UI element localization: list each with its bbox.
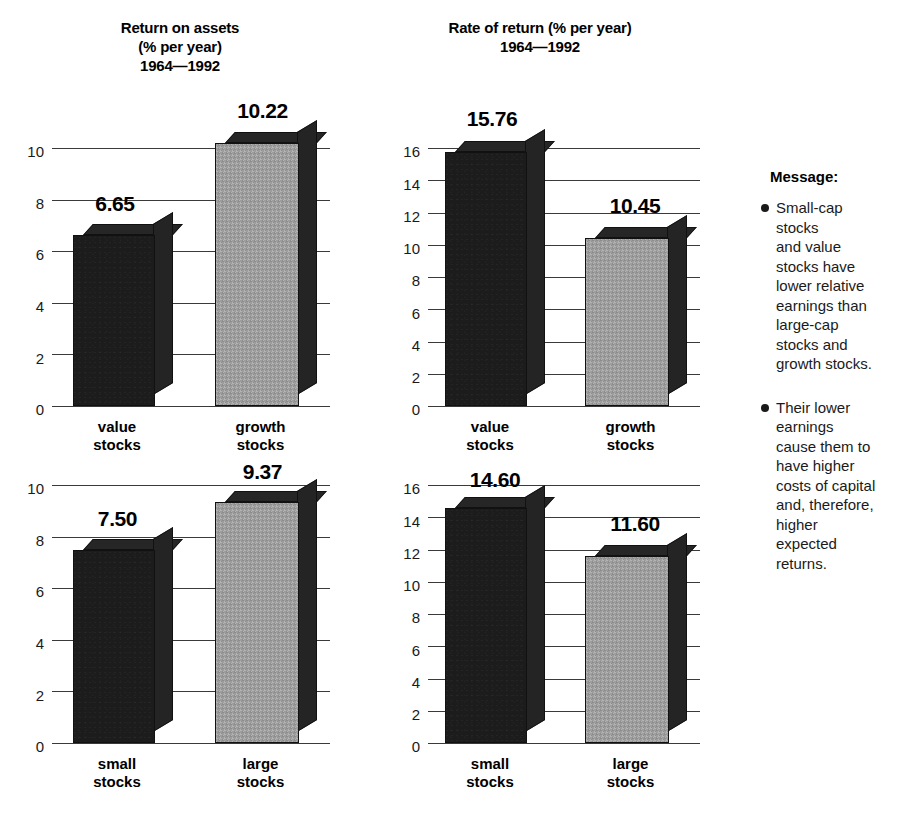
x-category-label: growth stocks <box>203 418 318 454</box>
message-bullet-item: Their lower earnings cause them to have … <box>760 398 900 574</box>
bar-large-stocks <box>585 545 690 743</box>
bar-value-stocks <box>445 141 547 406</box>
bar-side-face <box>525 485 545 732</box>
ytick-label: 0 <box>382 739 420 754</box>
ytick-label: 16 <box>382 481 420 496</box>
ytick-label: 4 <box>6 636 44 651</box>
ytick-label: 6 <box>6 247 44 262</box>
message-heading: Message: <box>770 168 900 185</box>
ytick-label: 6 <box>6 584 44 599</box>
ytick-label: 10 <box>382 241 420 256</box>
bar-value-label: 6.65 <box>60 193 170 214</box>
x-category-label: small stocks <box>435 755 545 791</box>
bar-side-face <box>153 527 173 732</box>
ytick-label: 10 <box>382 578 420 593</box>
chart-panel-return-on-assets-value-growth: Return on assets (% per year) 1964—1992 … <box>0 10 360 460</box>
bar-front-face <box>215 143 299 406</box>
ytick-label: 4 <box>6 299 44 314</box>
bar-large-stocks <box>215 491 320 743</box>
x-category-label: value stocks <box>435 418 545 454</box>
plot-area-bottom-left: 10 8 6 4 2 0 7.50 9.37 small stocks larg… <box>0 455 360 819</box>
gridline-0 <box>52 743 330 744</box>
gridline-0 <box>428 406 700 407</box>
ytick-label: 8 <box>382 610 420 625</box>
chart-page: Return on assets (% per year) 1964—1992 … <box>0 0 900 819</box>
gridline-0 <box>52 406 330 407</box>
ytick-label: 10 <box>6 144 44 159</box>
ytick-label: 0 <box>6 402 44 417</box>
bullet-dot-icon <box>761 204 769 212</box>
x-category-label: value stocks <box>62 418 172 454</box>
plot-area-top-left: 10 8 6 4 2 0 6.65 10.22 value stocks gro <box>0 10 360 460</box>
ytick-label: 16 <box>382 144 420 159</box>
plot-area-top-right: 16 14 12 10 8 6 4 2 0 15.76 10.45 v <box>380 10 720 460</box>
ytick-label: 2 <box>6 688 44 703</box>
ytick-label: 14 <box>382 177 420 192</box>
ytick-label: 14 <box>382 514 420 529</box>
message-bullet-text: Their lower earnings cause them to have … <box>776 399 875 572</box>
ytick-label: 0 <box>382 402 420 417</box>
x-category-label: large stocks <box>573 755 688 791</box>
bar-value-stocks <box>73 224 173 406</box>
bar-value-label: 15.76 <box>432 108 552 129</box>
ytick-label: 0 <box>6 739 44 754</box>
bar-front-face <box>445 508 527 743</box>
gridline-10 <box>52 485 330 486</box>
bar-value-label: 10.22 <box>205 100 320 121</box>
ytick-label: 6 <box>382 306 420 321</box>
ytick-label: 4 <box>382 338 420 353</box>
bar-growth-stocks <box>585 227 690 406</box>
x-category-label: growth stocks <box>573 418 688 454</box>
bar-side-face <box>153 212 173 395</box>
ytick-label: 4 <box>382 675 420 690</box>
bar-side-face <box>667 215 687 395</box>
bar-value-label: 11.60 <box>575 513 695 534</box>
bar-front-face <box>585 556 669 743</box>
ytick-label: 8 <box>6 533 44 548</box>
x-category-label: large stocks <box>203 755 318 791</box>
bar-value-label: 7.50 <box>60 508 175 529</box>
gridline-0 <box>428 743 700 744</box>
bar-front-face <box>585 238 669 406</box>
ytick-label: 12 <box>382 546 420 561</box>
bar-value-label: 9.37 <box>205 461 320 482</box>
ytick-label: 2 <box>382 707 420 722</box>
message-bullet-item: Small-cap stocks and value stocks have l… <box>760 198 900 374</box>
bar-value-label: 10.45 <box>575 195 695 216</box>
message-bullet-text: Small-cap stocks and value stocks have l… <box>776 199 872 372</box>
ytick-label: 2 <box>6 351 44 366</box>
bar-small-stocks <box>73 539 173 743</box>
bar-side-face <box>525 129 545 395</box>
chart-panel-return-on-assets-small-large: 10 8 6 4 2 0 7.50 9.37 small stocks larg… <box>0 455 360 819</box>
ytick-label: 12 <box>382 209 420 224</box>
bar-side-face <box>297 120 317 395</box>
bullet-dot-icon <box>761 404 769 412</box>
ytick-label: 2 <box>382 370 420 385</box>
bar-side-face <box>667 533 687 732</box>
ytick-label: 10 <box>6 481 44 496</box>
message-panel: Message: Small-cap stocks and value stoc… <box>760 168 900 590</box>
bar-front-face <box>215 502 299 743</box>
bar-front-face <box>73 550 155 743</box>
ytick-label: 8 <box>6 196 44 211</box>
ytick-label: 8 <box>382 273 420 288</box>
chart-panel-rate-of-return-small-large: 16 14 12 10 8 6 4 2 0 14.60 11.60 s <box>380 455 720 819</box>
chart-panel-rate-of-return-value-growth: Rate of return (% per year) 1964—1992 16… <box>380 10 720 460</box>
bar-growth-stocks <box>215 132 320 406</box>
x-category-label: small stocks <box>62 755 172 791</box>
bar-small-stocks <box>445 497 547 743</box>
bar-front-face <box>445 152 527 406</box>
ytick-label: 6 <box>382 643 420 658</box>
plot-area-bottom-right: 16 14 12 10 8 6 4 2 0 14.60 11.60 s <box>380 455 720 819</box>
bar-value-label: 14.60 <box>435 469 555 490</box>
bar-side-face <box>297 479 317 732</box>
bar-front-face <box>73 235 155 406</box>
